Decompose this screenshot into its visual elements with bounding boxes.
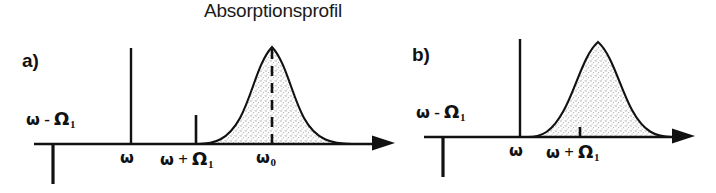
absorption-profile-area-b <box>528 42 672 137</box>
panel-b-graphics <box>424 39 695 177</box>
axis-arrowhead-b <box>672 129 695 144</box>
axis-arrowhead-a <box>372 136 395 151</box>
absorption-profile-area-a <box>198 47 352 144</box>
figure-vector-overlay <box>0 0 716 193</box>
absorption-profile-figure: Absorptionsprofil a) b) ω - Ω1 ω ω + Ω1 … <box>0 0 716 193</box>
panel-a-graphics <box>34 47 395 184</box>
